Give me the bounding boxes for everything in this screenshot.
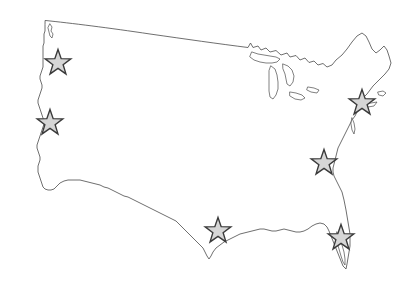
map-figure: Pacific NorthwestNorthern CaliforniaNort…: [0, 0, 414, 287]
us-map-svg: Pacific NorthwestNorthern CaliforniaNort…: [0, 0, 414, 287]
